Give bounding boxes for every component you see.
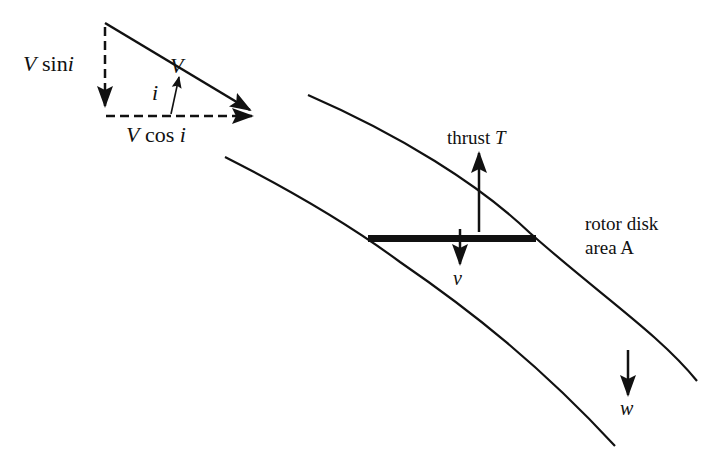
thrust-symbol: T: [495, 127, 506, 148]
thrust-label: thrust T: [447, 128, 506, 147]
sin-function: sin: [42, 51, 68, 76]
angle-label: i: [152, 82, 158, 104]
rotor-disk-label-line2: area A: [585, 236, 658, 260]
rotor-disk-label-line1: rotor disk: [585, 212, 658, 236]
thrust-text: thrust: [447, 127, 490, 148]
horizontal-component-label: V cos i: [126, 124, 186, 146]
i-symbol: i: [68, 51, 74, 76]
angle-arrow: [171, 77, 179, 114]
cos-function: cos: [145, 122, 174, 147]
wake-velocity-symbol: w: [620, 397, 633, 419]
rotor-momentum-diagram: V V sini V cos i i thrust T rotor disk a…: [0, 0, 715, 459]
induced-velocity-label: v: [453, 268, 462, 288]
streamtube-lower-boundary: [225, 157, 615, 446]
rotor-disk-label: rotor disk area A: [585, 212, 658, 260]
i-symbol: i: [180, 122, 186, 147]
rotor-disk: [368, 235, 536, 242]
wake-velocity-label: w: [620, 398, 633, 418]
resultant-velocity-symbol: V: [170, 53, 183, 78]
induced-velocity-symbol: v: [453, 267, 462, 289]
angle-symbol: i: [152, 80, 158, 105]
v-symbol: V: [23, 51, 36, 76]
v-symbol: V: [126, 122, 139, 147]
resultant-velocity-label: V: [170, 55, 183, 77]
vertical-component-label: V sini: [23, 53, 74, 75]
